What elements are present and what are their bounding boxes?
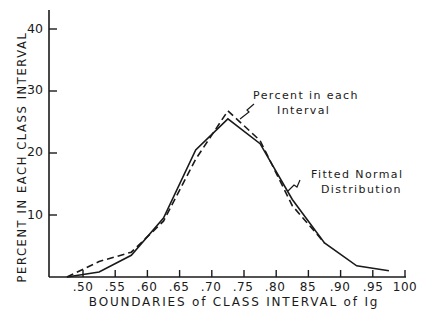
x-tick-label: .90: [325, 280, 355, 294]
x-tick-label: .95: [358, 280, 388, 294]
plot-area: [0, 0, 421, 318]
annotation-arrow-fitted: [288, 180, 300, 191]
y-tick-label: 40: [21, 21, 43, 36]
y-tick-label: 10: [21, 207, 43, 222]
annotation-line: Percent in each: [253, 88, 359, 103]
series-percent-in-each-interval: [67, 111, 325, 277]
annotation-arrow-interval: [240, 104, 254, 119]
y-tick-label: 30: [21, 82, 43, 97]
x-tick-label: .65: [164, 280, 194, 294]
annotation-percent-in-each-interval: Percent in each Interval: [253, 88, 359, 118]
x-tick-label: .60: [132, 280, 162, 294]
x-tick-label: 85: [293, 280, 323, 294]
chart: PERCENT IN EACH CLASS INTERVAL BOUNDARIE…: [0, 0, 421, 318]
x-tick-label: 100: [390, 280, 420, 294]
y-tick-label: 20: [21, 144, 43, 159]
x-tick-label: .70: [196, 280, 226, 294]
x-tick-label: .55: [100, 280, 130, 294]
annotation-line: Distribution: [301, 182, 403, 197]
x-axis-label: BOUNDARIES of CLASS INTERVAL of Ig: [64, 295, 404, 309]
x-tick-label: .75: [228, 280, 258, 294]
annotation-line: Interval: [253, 103, 359, 118]
annotation-fitted-normal: Fitted Normal Distribution: [301, 167, 403, 197]
x-tick-label: .80: [260, 280, 290, 294]
x-ticks: [83, 270, 405, 277]
series-fitted-normal: [67, 119, 389, 277]
annotation-line: Fitted Normal: [301, 167, 403, 182]
x-tick-label: .50: [68, 280, 98, 294]
y-ticks: [49, 29, 57, 215]
